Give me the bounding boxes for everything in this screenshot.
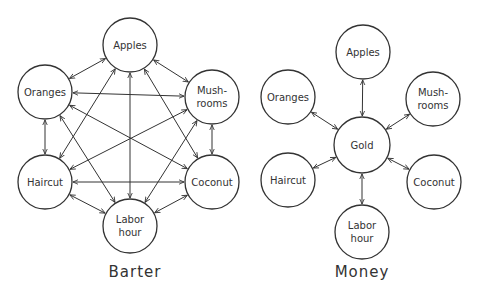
barter-node-labor-hour-circle [103,199,157,253]
money-node-haircut-label: Haircut [270,175,306,186]
money-node-labor-hour-label: hour [351,233,375,244]
money-node-mushrooms-label: Mush- [418,87,449,98]
barter-node-haircut: Haircut [18,155,72,209]
barter-node-labor-hour-label: hour [119,227,143,238]
money-node-mushrooms-label: rooms [417,100,448,111]
money-node-apples-label: Apples [346,47,380,58]
barter-edge-coconut-labor-hour [155,195,188,213]
money-node-mushrooms-circle [406,72,460,126]
barter-edge-oranges-mushrooms [73,93,184,96]
barter-node-coconut-label: Coconut [191,177,232,188]
money-node-coconut-label: Coconut [413,177,454,188]
money-node-apples: Apples [336,25,390,79]
money-node-labor-hour: Laborhour [335,205,389,259]
barter-node-mushrooms-label: Mush- [197,85,228,96]
barter-caption: Barter [109,263,162,281]
barter-node-haircut-label: Haircut [27,177,63,188]
captions-layer: BarterMoney [109,263,390,281]
barter-edge-apples-mushrooms [154,60,189,82]
money-edge-haircut-gold [313,157,335,168]
barter-edge-apples-oranges [70,59,106,79]
barter-node-coconut: Coconut [185,155,239,209]
money-edge-oranges-gold [311,112,337,129]
money-node-oranges-label: Oranges [267,92,309,103]
money-caption: Money [335,263,390,281]
money-node-gold-label: Gold [351,140,374,151]
barter-node-mushrooms-circle [185,70,239,124]
barter-node-mushrooms: Mush-rooms [185,70,239,124]
money-node-mushrooms: Mush-rooms [406,72,460,126]
barter-node-oranges: Oranges [18,65,72,119]
money-node-labor-hour-label: Labor [348,220,377,231]
barter-node-mushrooms-label: rooms [196,98,227,109]
money-edge-mushrooms-gold [386,114,409,129]
money-node-gold: Gold [334,117,390,173]
barter-node-labor-hour: Laborhour [103,199,157,253]
money-node-coconut: Coconut [407,155,461,209]
money-edge-coconut-gold [388,158,409,169]
barter-edge-mushrooms-haircut [70,110,187,170]
nodes-layer: ApplesOrangesMush-roomsHaircutCoconutLab… [18,18,461,259]
money-node-haircut: Haircut [261,153,315,207]
barter-node-oranges-label: Oranges [24,87,66,98]
money-node-oranges: Oranges [261,70,315,124]
barter-node-labor-hour-label: Labor [116,214,145,225]
money-node-labor-hour-circle [335,205,389,259]
barter-vs-money-diagram: ApplesOrangesMush-roomsHaircutCoconutLab… [0,0,478,294]
barter-node-apples-label: Apples [113,40,147,51]
barter-edge-haircut-labor-hour [70,195,105,213]
barter-node-apples: Apples [103,18,157,72]
